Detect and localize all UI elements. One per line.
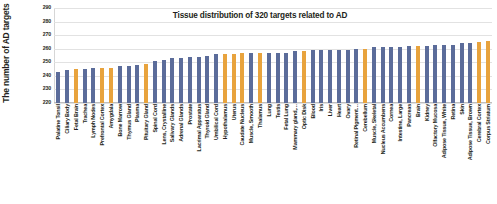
bar[interactable]: [258, 53, 262, 103]
bar[interactable]: [468, 43, 472, 103]
bar-slot: [89, 8, 98, 103]
x-label-slot: Heart: [335, 104, 344, 196]
bar-slot: [80, 8, 89, 103]
x-label-slot: Hypothalamus: [221, 104, 230, 196]
bar-slot: [335, 8, 344, 103]
bar[interactable]: [311, 50, 315, 103]
bar-slot: [177, 8, 186, 103]
bar-slot: [273, 8, 282, 103]
bar[interactable]: [346, 50, 350, 103]
bar-slot: [168, 8, 177, 103]
x-tick-label: Blood: [310, 104, 316, 119]
bar[interactable]: [337, 50, 341, 103]
chart-figure: The number of AD targets Tissue distribu…: [0, 0, 497, 204]
bar[interactable]: [477, 42, 481, 103]
y-tick-label: 230: [43, 87, 51, 92]
x-tick-label: Caudate Nucleus: [239, 104, 245, 146]
bar[interactable]: [91, 68, 95, 103]
bar[interactable]: [460, 43, 464, 103]
bar[interactable]: [328, 50, 332, 103]
y-tick-label: 290: [43, 5, 51, 10]
bar[interactable]: [293, 51, 297, 103]
bar[interactable]: [319, 50, 323, 103]
x-tick-label: Cerebellum: [362, 104, 368, 132]
bar[interactable]: [451, 45, 455, 103]
bar[interactable]: [65, 70, 69, 103]
bar[interactable]: [416, 46, 420, 103]
bar-slot: [475, 8, 484, 103]
bar-slot: [72, 8, 81, 103]
bar[interactable]: [179, 58, 183, 103]
bar-slot: [264, 8, 273, 103]
bar[interactable]: [144, 64, 148, 103]
bar[interactable]: [100, 68, 104, 103]
bar[interactable]: [407, 46, 411, 103]
x-label-slot: Spinal Cord: [150, 104, 159, 196]
bar[interactable]: [74, 69, 78, 103]
y-axis-title: The number of AD targets: [0, 3, 13, 103]
x-tick-label: Umbilical Cord: [213, 104, 219, 140]
x-tick-label: Fetal Brain: [73, 104, 79, 130]
x-tick-label: Pituitary Gland: [143, 104, 149, 140]
bar[interactable]: [302, 51, 306, 103]
x-tick-label: Thymus Gland: [126, 104, 132, 140]
bar[interactable]: [284, 53, 288, 103]
bar[interactable]: [109, 68, 113, 103]
x-label-slot: Thyroid Gland: [203, 104, 212, 196]
y-tick-label: 250: [43, 60, 51, 65]
bar[interactable]: [363, 49, 367, 103]
x-tick-label: Lacrimal Apparatus: [196, 104, 202, 151]
x-label-slot: Cornea: [387, 104, 396, 196]
bar[interactable]: [153, 61, 157, 103]
bar[interactable]: [170, 58, 174, 103]
bar[interactable]: [162, 60, 166, 103]
bar-slot: [194, 8, 203, 103]
x-label-slot: Adipose Tissue, White: [440, 104, 449, 196]
bar[interactable]: [381, 47, 385, 103]
bar[interactable]: [118, 66, 122, 103]
x-tick-label: Nucleus Accumbens: [380, 104, 386, 154]
bar[interactable]: [214, 54, 218, 103]
bar[interactable]: [425, 46, 429, 103]
x-tick-label: Muscle, Smooth: [248, 104, 254, 143]
bar[interactable]: [232, 54, 236, 103]
x-label-slot: Olfactory Mucosa: [431, 104, 440, 196]
x-label-slot: Lung: [264, 104, 273, 196]
bar[interactable]: [188, 57, 192, 103]
bar-slot: [212, 8, 221, 103]
x-tick-label: Adipose Tissue, White: [441, 104, 447, 158]
bar[interactable]: [127, 66, 131, 103]
bar[interactable]: [486, 41, 490, 103]
x-label-slot: Thymus Gland: [124, 104, 133, 196]
bar-slot: [247, 8, 256, 103]
bar-slot: [361, 8, 370, 103]
bar[interactable]: [56, 72, 60, 103]
bar-slot: [431, 8, 440, 103]
bar[interactable]: [83, 69, 87, 103]
bar-series: [54, 8, 492, 103]
bar[interactable]: [276, 53, 280, 103]
bar-slot: [107, 8, 116, 103]
bar[interactable]: [205, 56, 209, 104]
y-tick-label: 260: [43, 46, 51, 51]
x-label-slot: Mammary gland,…: [291, 104, 300, 196]
bar[interactable]: [398, 47, 402, 103]
bar-slot: [466, 8, 475, 103]
bar[interactable]: [240, 53, 244, 103]
x-label-slot: Kidney: [422, 104, 431, 196]
bar[interactable]: [389, 47, 393, 103]
bar-slot: [440, 8, 449, 103]
bar[interactable]: [433, 45, 437, 103]
x-tick-label: Retinal Pigment…: [353, 104, 359, 148]
bar[interactable]: [372, 47, 376, 103]
x-label-slot: Fetal Brain: [72, 104, 81, 196]
bar[interactable]: [249, 53, 253, 103]
bar[interactable]: [442, 45, 446, 103]
bar[interactable]: [135, 65, 139, 103]
bar[interactable]: [223, 54, 227, 103]
bar-slot: [124, 8, 133, 103]
bar[interactable]: [197, 57, 201, 103]
bar[interactable]: [354, 49, 358, 103]
bar-slot: [405, 8, 414, 103]
bar[interactable]: [267, 53, 271, 103]
